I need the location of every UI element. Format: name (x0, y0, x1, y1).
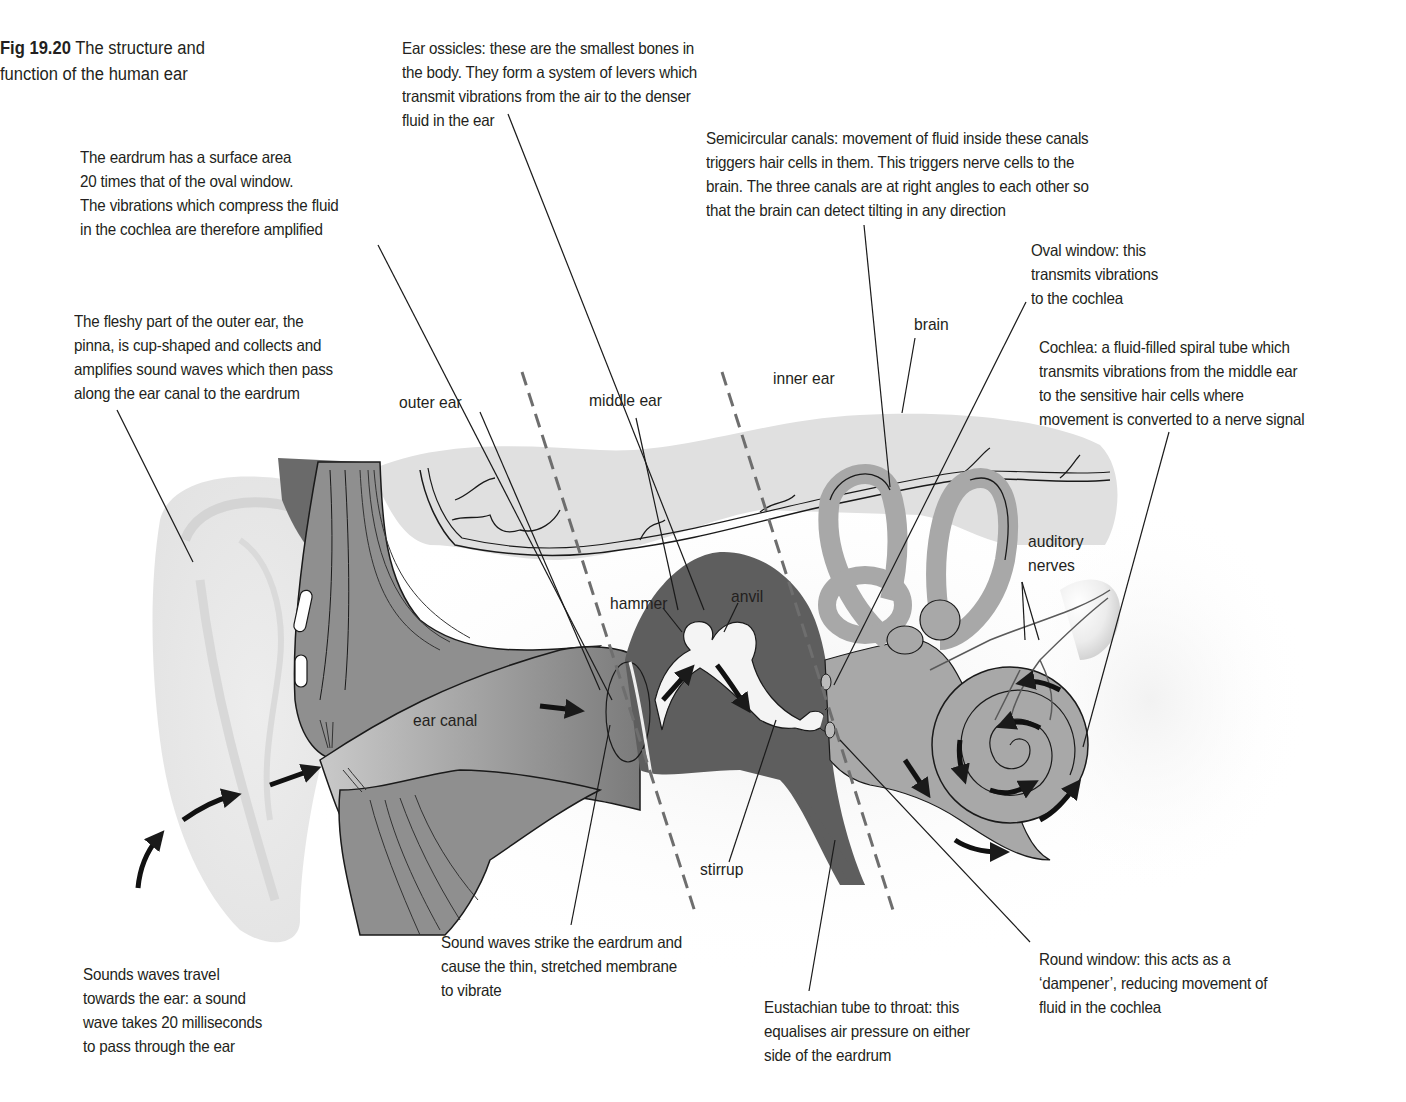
figure-title-line2: function of the human ear (0, 62, 188, 87)
figure-title: Fig 19.20 The structure and (0, 36, 205, 61)
label-anvil: anvil (731, 587, 763, 607)
label-stirrup: stirrup (700, 860, 743, 880)
label-inner-ear: inner ear (773, 369, 835, 389)
annotation-semicircular-canals: Semicircular canals: movement of fluid i… (706, 126, 1089, 222)
figure-title-line1: The structure and (75, 38, 205, 58)
annotation-pinna: The fleshy part of the outer ear, the pi… (74, 309, 333, 405)
annotation-cochlea: Cochlea: a fluid-filled spiral tube whic… (1039, 335, 1304, 431)
label-auditory-nerves-2: nerves (1028, 556, 1075, 576)
figure-number: Fig 19.20 (0, 38, 71, 58)
annotation-eustachian-tube: Eustachian tube to throat: this equalise… (764, 995, 970, 1067)
annotation-sound-waves-travel: Sounds waves travel towards the ear: a s… (83, 962, 262, 1058)
label-outer-ear: outer ear (399, 393, 462, 413)
round-window (825, 722, 835, 738)
label-middle-ear: middle ear (589, 391, 662, 411)
label-auditory-nerves-1: auditory (1028, 532, 1084, 552)
sound-arrow-1 (138, 838, 158, 888)
annotation-ear-ossicles: Ear ossicles: these are the smallest bon… (402, 36, 697, 132)
annotation-eardrum-strike: Sound waves strike the eardrum and cause… (441, 930, 682, 1002)
annotation-eardrum-area: The eardrum has a surface area 20 times … (80, 145, 339, 241)
label-brain: brain (914, 315, 949, 335)
label-ear-canal: ear canal (413, 711, 477, 731)
label-hammer: hammer (610, 594, 667, 614)
annotation-round-window: Round window: this acts as a ‘dampener’,… (1039, 947, 1267, 1019)
annotation-oval-window: Oval window: this transmits vibrations t… (1031, 238, 1158, 310)
